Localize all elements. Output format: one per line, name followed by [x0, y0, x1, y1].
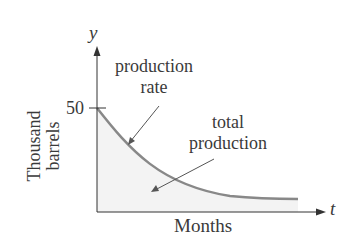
t-axis-symbol: t — [330, 199, 335, 218]
x-axis-label: Months — [174, 216, 232, 235]
y-axis-arrow-icon — [94, 46, 101, 56]
y-axis-label-line2: barrels — [44, 111, 63, 182]
total-production-label: total production — [173, 112, 283, 154]
tick-label-50: 50 — [66, 99, 84, 117]
y-axis-label: Thousand barrels — [25, 111, 63, 182]
total-production-line1: total — [173, 112, 283, 133]
y-axis-symbol: y — [89, 23, 97, 42]
y-axis-label-line1: Thousand — [25, 111, 44, 182]
production-rate-label: production rate — [115, 56, 193, 98]
production-rate-line2: rate — [115, 77, 193, 98]
rate-pointer-arrow-icon — [128, 137, 135, 145]
x-axis-arrow-icon — [316, 209, 326, 216]
total-production-line2: production — [173, 133, 283, 154]
production-rate-line1: production — [115, 56, 193, 77]
rate-pointer-line — [130, 106, 159, 142]
